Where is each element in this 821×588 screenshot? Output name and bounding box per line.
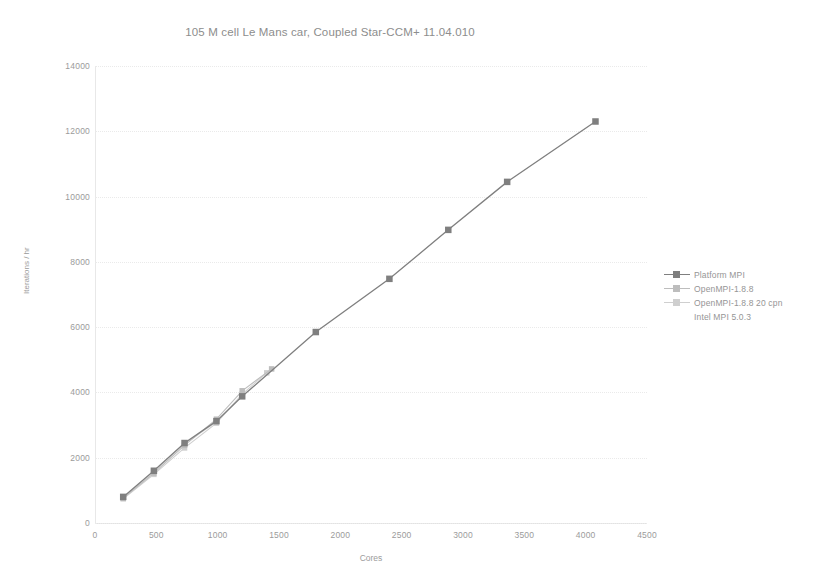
legend-item[interactable]: OpenMPI-1.8.8 20 cpn: [664, 296, 814, 309]
data-point-marker: [592, 118, 599, 125]
data-point-marker: [313, 329, 320, 336]
legend-item-label: Intel MPI 5.0.3: [694, 312, 751, 322]
data-point-marker: [445, 227, 452, 234]
x-axis-tick: 3000: [453, 530, 473, 540]
y-axis-tick: 4000: [70, 387, 90, 397]
y-axis-tick: 14000: [65, 61, 90, 71]
data-point-marker: [213, 418, 220, 425]
x-axis-tick: 2500: [392, 530, 412, 540]
x-axis-tick-labels: 050010001500200025003000350040004500: [95, 530, 647, 544]
chart-title: 105 M cell Le Mans car, Coupled Star-CCM…: [0, 26, 660, 38]
y-axis-tick: 2000: [70, 453, 90, 463]
legend-swatch-icon: [664, 311, 690, 322]
plot-area: [95, 66, 647, 523]
data-point-marker: [120, 494, 127, 501]
x-axis-tick: 1500: [269, 530, 289, 540]
legend-item[interactable]: Intel MPI 5.0.3: [664, 310, 814, 323]
legend-item-label: OpenMPI-1.8.8 20 cpn: [694, 298, 783, 308]
x-axis-tick: 3500: [514, 530, 534, 540]
y-axis-tick: 6000: [70, 322, 90, 332]
x-axis-title: Cores: [95, 553, 647, 563]
y-axis-tick: 12000: [65, 126, 90, 136]
legend-item-label: Platform MPI: [694, 270, 745, 280]
x-axis-tick: 4000: [576, 530, 596, 540]
legend-item[interactable]: OpenMPI-1.8.8: [664, 282, 814, 295]
data-point-marker: [504, 179, 511, 186]
x-axis-tick: 1000: [208, 530, 228, 540]
x-axis-tick: 4500: [637, 530, 657, 540]
y-axis-tick-labels: 02000400060008000100001200014000: [52, 66, 90, 523]
legend-swatch-icon: [664, 269, 690, 280]
data-point-marker: [151, 468, 158, 475]
x-axis-tick: 500: [149, 530, 164, 540]
series-lines: [95, 66, 647, 523]
y-axis-tick: 8000: [70, 257, 90, 267]
legend-item[interactable]: Platform MPI: [664, 268, 814, 281]
y-axis-tick: 10000: [65, 192, 90, 202]
chart-legend: Platform MPIOpenMPI-1.8.8OpenMPI-1.8.8 2…: [664, 268, 814, 324]
data-point-marker: [239, 388, 245, 394]
y-axis-tick: 0: [85, 518, 90, 528]
legend-item-label: OpenMPI-1.8.8: [694, 284, 754, 294]
legend-swatch-icon: [664, 283, 690, 294]
data-point-marker: [386, 276, 393, 283]
data-point-marker: [181, 440, 188, 447]
x-axis-tick: 2000: [330, 530, 350, 540]
gridline: [95, 523, 647, 525]
x-axis-tick: 0: [93, 530, 98, 540]
chart-container: 105 M cell Le Mans car, Coupled Star-CCM…: [0, 0, 821, 588]
data-point-marker: [239, 393, 246, 400]
y-axis-title: Iterations / hr: [22, 247, 31, 294]
legend-swatch-icon: [664, 297, 690, 308]
